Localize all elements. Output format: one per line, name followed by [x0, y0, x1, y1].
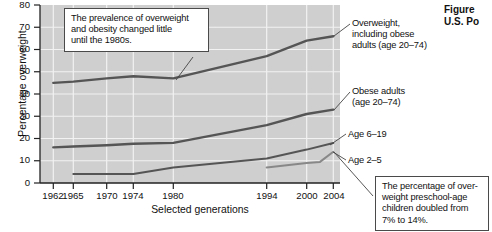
series-label-overweight-line1: Overweight, [352, 18, 427, 29]
series-label-overweight-line2: including obese [352, 29, 427, 40]
x-tick-label-1974: 1974 [116, 190, 150, 201]
y-tick-label-0: 0 [12, 177, 30, 188]
y-axis-title: Percentage overweight [17, 14, 28, 154]
x-tick-label-1980: 1980 [156, 190, 190, 201]
annotation-preschool-line2: weight preschool-age [382, 192, 483, 203]
series-label-overweight: Overweight, including obese adults (age … [352, 18, 427, 52]
y-tick-label-10: 10 [12, 154, 30, 165]
x-tick-label-2004: 2004 [317, 190, 351, 201]
figure-caption-line1: Figure [444, 4, 492, 16]
x-axis-title: Selected generations [110, 204, 290, 215]
x-axis-ticks [53, 183, 333, 189]
y-tick-label-80: 80 [12, 0, 30, 10]
figure-container: 80 70 60 50 40 30 20 10 0 1962 1965 1970… [0, 0, 492, 232]
series-label-age-6-19: Age 6–19 [348, 129, 387, 140]
series-label-obese-line1: Obese adults [352, 86, 405, 97]
figure-caption-line2: U.S. Po [444, 16, 492, 28]
annotation-prevalence-line3: until the 1980s. [71, 35, 203, 46]
annotation-callout-preschool: The percentage of over- weight preschool… [375, 176, 489, 231]
y-axis-ticks [34, 5, 40, 183]
x-tick-label-1965: 1965 [56, 190, 90, 201]
annotation-callout-prevalence: The prevalence of overweight and obesity… [64, 8, 209, 52]
annotation-preschool-line1: The percentage of over- [382, 181, 483, 192]
series-label-age-2-5: Age 2–5 [348, 155, 382, 166]
series-label-obese-adults: Obese adults (age 20–74) [352, 86, 405, 108]
series-label-obese-line2: (age 20–74) [352, 97, 405, 108]
annotation-preschool-line4: 7% to 14%. [382, 215, 483, 226]
figure-caption: Figure U.S. Po [444, 4, 492, 28]
x-tick-label-1994: 1994 [250, 190, 284, 201]
annotation-prevalence-line2: and obesity changed little [71, 24, 203, 35]
series-label-overweight-line3: adults (age 20–74) [352, 40, 427, 51]
annotation-preschool-line3: children doubled from [382, 203, 483, 214]
annotation-prevalence-line1: The prevalence of overweight [71, 13, 203, 24]
